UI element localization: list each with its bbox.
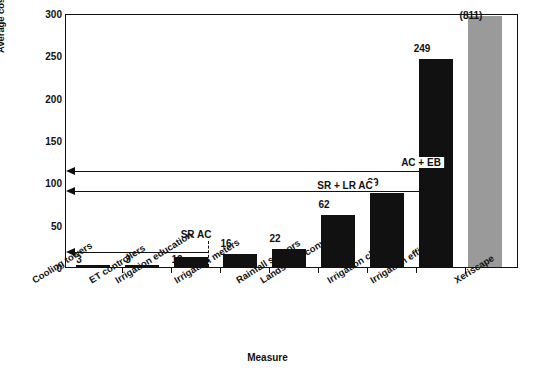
y-tick-label-100: 100 (34, 178, 62, 189)
annotation-ac-eb-arrow (66, 167, 75, 175)
bar-value-landscape-conversion: 62 (318, 199, 329, 210)
y-axis-title: Average cost ($ thousands/mgal) (0, 0, 6, 60)
bar-value-xeriscape: (811) (460, 10, 483, 21)
x-tick-mark-2 (171, 268, 172, 273)
x-tick-mark-3 (220, 268, 221, 273)
annotation-sr-lr-ac-label: SR + LR AC (314, 180, 375, 191)
y-tick-label-200: 200 (34, 93, 62, 104)
annotation-sr-lr-ac-arrow (66, 187, 75, 195)
x-tick-mark-7 (416, 268, 417, 273)
annotation-sr-lr-ac-line (72, 191, 422, 192)
x-tick-mark-6 (367, 268, 368, 273)
y-tick-label-50: 50 (34, 220, 62, 231)
bar-value-rainfall-sensors: 22 (269, 233, 280, 244)
y-tick-label-300: 300 (34, 9, 62, 20)
annotation-ac-eb-label: AC + EB (398, 157, 444, 168)
y-tick-label-150: 150 (34, 136, 62, 147)
chart-root: Average cost ($ thousands/mgal) 0 50 100… (0, 0, 535, 374)
x-tick-mark-5 (318, 268, 319, 273)
plot-area (65, 14, 518, 268)
annotation-ac-eb-line (72, 171, 422, 172)
y-tick-label-250: 250 (34, 51, 62, 62)
bar-value-irrigation-efficiency: 249 (414, 43, 431, 54)
y-axis-tick-labels: 0 50 100 150 200 250 300 (30, 0, 62, 374)
bar-value-irrigation-education: 12 (171, 254, 182, 265)
x-axis-title: Measure (0, 352, 535, 363)
bar-xeriscape (468, 16, 502, 267)
